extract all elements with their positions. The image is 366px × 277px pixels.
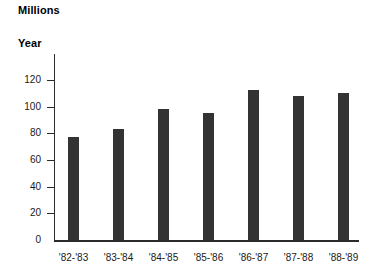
x-axis-line xyxy=(54,240,359,242)
y-axis-tick-mark xyxy=(47,80,55,81)
plot-area: 020406080100120 '82-'83'83-'84'84-'85'85… xyxy=(0,0,366,277)
bar xyxy=(68,137,79,240)
y-axis-tick-label: 20 xyxy=(0,207,41,218)
bar xyxy=(113,129,124,240)
y-axis-tick-label: 80 xyxy=(0,127,41,138)
y-axis-tick-label: 100 xyxy=(0,101,41,112)
y-axis-tick-mark xyxy=(47,187,55,188)
y-axis-tick-mark xyxy=(47,133,55,134)
x-axis-tick-label: '88-'89 xyxy=(316,252,366,263)
y-axis-tick-mark xyxy=(47,160,55,161)
bar xyxy=(293,96,304,240)
bar xyxy=(158,109,169,240)
bar xyxy=(248,90,259,240)
y-axis-tick-label: 40 xyxy=(0,181,41,192)
bar-chart: Millions Year 020406080100120 '82-'83'83… xyxy=(0,0,366,277)
bar xyxy=(203,113,214,240)
y-axis-tick-label: 120 xyxy=(0,74,41,85)
y-axis-tick-mark xyxy=(47,213,55,214)
y-axis-tick-label: 0 xyxy=(0,234,41,245)
bar xyxy=(338,93,349,240)
y-axis-tick-label: 60 xyxy=(0,154,41,165)
y-axis-tick-mark xyxy=(47,107,55,108)
